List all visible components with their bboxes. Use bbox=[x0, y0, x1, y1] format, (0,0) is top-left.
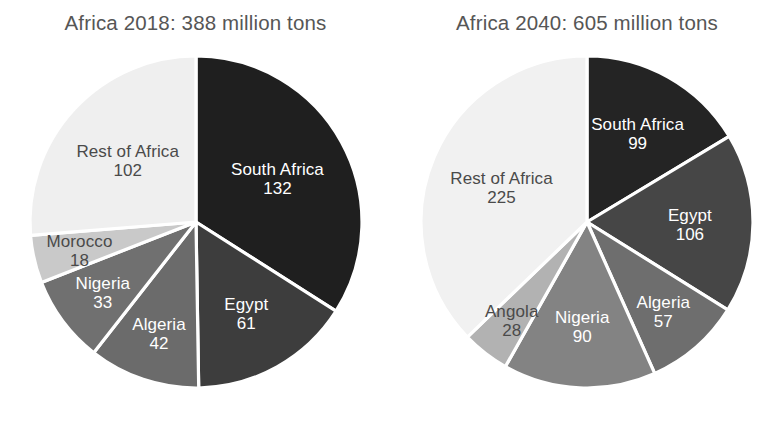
pie-slice-value: 57 bbox=[654, 312, 673, 331]
pie-slice-name: Rest of Africa bbox=[450, 169, 553, 188]
pie-slice-value: 225 bbox=[487, 188, 515, 207]
chart-panel-2018: Africa 2018: 388 million tons South Afri… bbox=[0, 0, 391, 429]
pie-slice-name: Egypt bbox=[224, 295, 268, 314]
pie-slice-name: Egypt bbox=[668, 206, 712, 225]
pie-wrap-2018: South Africa132Egypt61Algeria42Nigeria33… bbox=[0, 52, 391, 429]
pie-slice-value: 99 bbox=[628, 134, 647, 153]
pie-slice-name: Nigeria bbox=[555, 308, 610, 327]
pie-slice-name: Morocco bbox=[46, 232, 112, 251]
pie-slice-name: South Africa bbox=[231, 160, 324, 179]
pie-slice-name: South Africa bbox=[591, 115, 684, 134]
pie-wrap-2040: South Africa99Egypt106Algeria57Nigeria90… bbox=[391, 52, 783, 429]
pie-slice-value: 61 bbox=[236, 314, 255, 333]
pie-slice-name: Algeria bbox=[132, 315, 186, 334]
pie-slice-value: 18 bbox=[70, 251, 89, 270]
pie-slice-value: 106 bbox=[676, 225, 704, 244]
chart-panel-2040: Africa 2040: 605 million tons South Afri… bbox=[391, 0, 783, 429]
pie-slice-name: Algeria bbox=[636, 293, 690, 312]
pie-chart-figure: Africa 2018: 388 million tons South Afri… bbox=[0, 0, 783, 429]
pie-slice-name: Angola bbox=[485, 302, 539, 321]
pie-slice-value: 33 bbox=[93, 293, 112, 312]
chart-title-2040: Africa 2040: 605 million tons bbox=[391, 11, 783, 35]
pie-slice-name: Nigeria bbox=[75, 274, 130, 293]
pie-slice-value: 28 bbox=[502, 321, 521, 340]
pie-slice-value: 102 bbox=[113, 161, 141, 180]
pie-chart-2018: South Africa132Egypt61Algeria42Nigeria33… bbox=[26, 52, 366, 429]
pie-slice-value: 42 bbox=[149, 334, 168, 353]
pie-chart-2040: South Africa99Egypt106Algeria57Nigeria90… bbox=[417, 52, 757, 429]
pie-slice-name: Rest of Africa bbox=[76, 142, 179, 161]
chart-title-2018: Africa 2018: 388 million tons bbox=[0, 11, 391, 35]
pie-slice-value: 132 bbox=[263, 179, 291, 198]
pie-slice-value: 90 bbox=[573, 327, 592, 346]
